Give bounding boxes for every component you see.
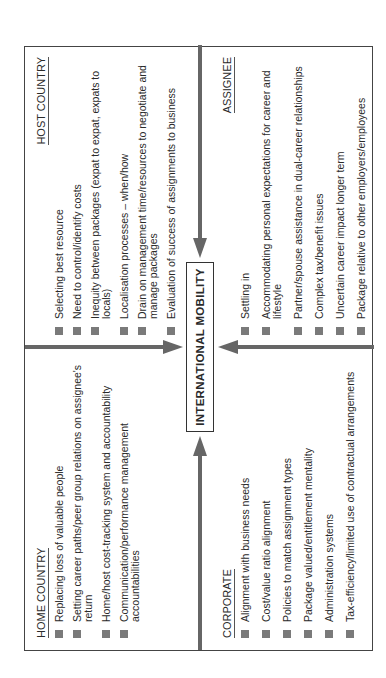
list-item: Drain on management time/resources to ne… [137,57,159,335]
arrow-from-top [25,345,165,349]
square-bullet-icon [73,630,81,638]
quadrant-corporate: CORPORATE Alignment with business needs … [203,350,374,650]
list-item: Selecting best resource [54,57,65,335]
quadrant-header: CORPORATE [221,360,233,638]
list-item: Cost/value ratio alignment [261,360,272,638]
square-bullet-icon [120,327,128,335]
list-item: Administration systems [324,360,335,638]
square-bullet-icon [336,327,344,335]
list-item: Settling in [240,57,251,335]
list-item: Setting career paths/peer group relation… [72,360,94,638]
list-item: Tax-efficiency/limited use of contractua… [345,360,356,638]
quadrant-header: HOME COUNTRY [35,360,47,638]
item-list: Replacing loss of valuable people Settin… [54,360,141,638]
list-item: Uncertain career impact longer term [335,57,346,335]
square-bullet-icon [304,630,312,638]
arrow-from-right [198,45,202,240]
arrow-from-left [198,454,202,650]
quadrant-host-country: HOST COUNTRY Selecting best resource Nee… [25,45,197,345]
list-item: Alignment with business needs [240,360,251,638]
square-bullet-icon [167,327,175,335]
square-bullet-icon [262,630,270,638]
list-item: Communication/performance management acc… [119,360,141,638]
list-item: Localisation processes – when/how [119,57,130,335]
quadrant-assignee: ASSIGNEE Settling in Accommodating perso… [203,45,374,345]
quadrant-header: ASSIGNEE [221,57,233,335]
square-bullet-icon [55,327,63,335]
square-bullet-icon [120,630,128,638]
list-item: Policies to match assignment types [282,360,293,638]
list-item: Replacing loss of valuable people [54,360,65,638]
item-list: Selecting best resource Need to control/… [54,57,177,335]
item-list: Alignment with business needs Cost/value… [240,360,356,638]
list-item: Home/host cost-tracking system and accou… [101,360,112,638]
arrow-from-bottom [237,345,374,349]
square-bullet-icon [91,327,99,335]
square-bullet-icon [346,630,354,638]
square-bullet-icon [262,327,270,335]
square-bullet-icon [325,630,333,638]
quadrant-home-country: HOME COUNTRY Replacing loss of valuable … [25,350,197,650]
square-bullet-icon [138,327,146,335]
list-item: Evaluation of success of assignments to … [166,57,177,335]
square-bullet-icon [102,630,110,638]
list-item: Accommodating personal expectations for … [261,57,283,335]
square-bullet-icon [73,327,81,335]
international-mobility-diagram: INTERNATIONAL MOBILITY HOME COUNTRY Repl… [24,46,373,651]
square-bullet-icon [241,327,249,335]
list-item: Inequity between packages (expat to expa… [90,57,112,335]
square-bullet-icon [315,327,323,335]
list-item: Package valued/entitlement mentality [303,360,314,638]
square-bullet-icon [294,327,302,335]
quadrant-header: HOST COUNTRY [35,57,47,335]
list-item: Package relative to other employers/empl… [356,57,367,335]
list-item: Need to control/identify costs [72,57,83,335]
square-bullet-icon [241,630,249,638]
list-item: Complex tax/benefit issues [314,57,325,335]
list-item: Partner/spouse assistance in dual-career… [293,57,304,335]
square-bullet-icon [357,327,365,335]
item-list: Settling in Accommodating personal expec… [240,57,367,335]
square-bullet-icon [55,630,63,638]
square-bullet-icon [283,630,291,638]
